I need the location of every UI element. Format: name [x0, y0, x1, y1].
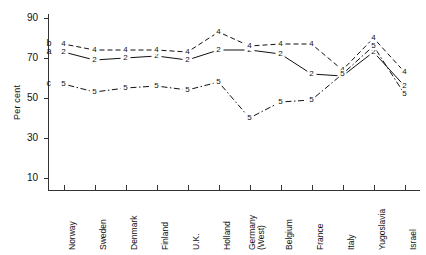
series-segment [315, 77, 338, 97]
series-segment [377, 42, 401, 69]
series-segment [99, 89, 120, 92]
series-segment [161, 57, 182, 60]
series-segment [254, 44, 275, 45]
series-segment [223, 34, 245, 44]
series-segment [222, 86, 246, 114]
data-point-marker: 5 [92, 88, 97, 96]
series-segment [377, 56, 401, 83]
series-segment [346, 42, 370, 67]
series-segment [316, 74, 337, 75]
data-point-marker: 4 [402, 68, 407, 76]
series-segment [376, 50, 402, 90]
series-segment [130, 86, 151, 87]
series-segment [192, 35, 215, 50]
data-point-marker: 5 [340, 70, 345, 78]
data-point-marker: 2 [216, 46, 221, 54]
series-segment [285, 100, 306, 101]
data-point-marker: 5 [123, 84, 128, 92]
data-point-marker: 4 [92, 46, 97, 54]
data-point-marker: 2 [92, 56, 97, 64]
data-point-marker: 4 [216, 28, 221, 36]
data-point-marker: 5 [216, 78, 221, 86]
data-point-marker: 5 [61, 80, 66, 88]
data-point-marker: 2 [123, 54, 128, 62]
series-key-b: b [47, 38, 52, 48]
series-segment [130, 56, 151, 57]
data-point-marker: 2 [185, 56, 190, 64]
series-segment [161, 50, 182, 51]
series-segment [161, 87, 182, 90]
series-segment [192, 52, 213, 59]
data-point-marker: 5 [278, 98, 283, 106]
data-point-marker: 4 [309, 40, 314, 48]
data-point-marker: 5 [247, 114, 252, 122]
series-segment [99, 58, 120, 59]
chart-container: Per cent 1030507090 NorwaySwedenDenmarkF… [0, 0, 426, 255]
series-segment [68, 45, 89, 49]
series-segment [346, 49, 370, 70]
data-point-marker: 4 [123, 46, 128, 54]
series-segment [192, 83, 213, 89]
series-segment [285, 57, 308, 72]
series-segment [315, 47, 338, 67]
data-point-marker: 4 [154, 46, 159, 54]
series-segment [68, 85, 89, 91]
series-key-c: c [47, 78, 52, 88]
data-point-marker: 2 [309, 70, 314, 78]
data-point-marker: 2 [278, 50, 283, 58]
data-point-marker: 5 [154, 82, 159, 90]
data-point-marker: 5 [309, 96, 314, 104]
data-point-marker: 4 [247, 42, 252, 50]
data-point-marker: 5 [185, 86, 190, 94]
series-segment [346, 55, 369, 73]
data-point-marker: 4 [61, 40, 66, 48]
data-point-marker: 2 [61, 48, 66, 56]
data-point-marker: 4 [278, 40, 283, 48]
data-point-marker: 4 [185, 48, 190, 56]
series-segment [254, 104, 276, 115]
series-segment [68, 53, 89, 59]
data-point-marker: 5 [402, 90, 407, 98]
data-point-marker: 5 [371, 42, 376, 50]
series-segment [254, 51, 275, 54]
